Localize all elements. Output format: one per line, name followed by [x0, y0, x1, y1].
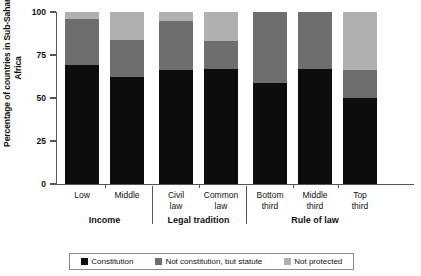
- x-axis-label-line: law: [189, 201, 253, 212]
- x-axis-label-line: Top: [328, 190, 392, 201]
- bar-middle: [110, 12, 144, 184]
- x-axis-label-line: Low: [50, 190, 114, 201]
- x-axis-label-line: third: [328, 201, 392, 212]
- x-axis-category-label: Middlethird: [283, 190, 347, 211]
- x-axis-label-line: third: [238, 201, 302, 212]
- bar-segment: [110, 40, 144, 78]
- bar-segment: [298, 12, 332, 69]
- chart-legend: ConstitutionNot constitution, but statut…: [69, 253, 354, 270]
- y-axis-title: Percentage of countries in Sub-Saharan A…: [2, 0, 24, 153]
- stacked-bar-chart: Percentage of countries in Sub-Saharan A…: [0, 0, 421, 276]
- bar-segment: [204, 12, 238, 41]
- x-axis-category-label: Topthird: [328, 190, 392, 211]
- bar-segment: [65, 12, 99, 19]
- x-axis-label-line: Middle: [95, 190, 159, 201]
- x-axis-group-label: Legal tradition: [139, 215, 259, 226]
- x-axis-group-separator: [246, 186, 247, 224]
- bar-middle-third: [298, 12, 332, 184]
- x-axis-line: [56, 184, 414, 185]
- bar-segment: [343, 98, 377, 184]
- bar-bottom-third: [253, 12, 287, 184]
- bar-common-law: [204, 12, 238, 184]
- bar-low: [65, 12, 99, 184]
- plot-area: [57, 12, 414, 184]
- bar-segment: [65, 19, 99, 65]
- legend-item: Not protected: [284, 257, 343, 266]
- bar-segment: [204, 41, 238, 69]
- light-swatch-icon: [284, 258, 291, 265]
- x-axis-group-separator: [152, 186, 153, 224]
- bar-segment: [253, 83, 287, 184]
- x-axis-group-label: Rule of law: [255, 215, 375, 226]
- dark-swatch-icon: [81, 258, 88, 265]
- bar-segment: [159, 70, 193, 184]
- legend-label: Not protected: [294, 257, 342, 266]
- legend-label: Not constitution, but statute: [165, 257, 262, 266]
- x-axis-label-line: law: [144, 201, 208, 212]
- bar-segment: [343, 12, 377, 70]
- bar-civil-law: [159, 12, 193, 184]
- x-axis-category-label: Civillaw: [144, 190, 208, 211]
- x-axis-category-label: Low: [50, 190, 114, 201]
- legend-item: Constitution: [81, 257, 134, 266]
- bar-segment: [204, 69, 238, 184]
- bar-segment: [65, 65, 99, 184]
- legend-label: Constitution: [91, 257, 133, 266]
- y-axis-tick-label: 0: [16, 180, 46, 189]
- x-axis-category-label: Middle: [95, 190, 159, 201]
- bar-segment: [110, 12, 144, 40]
- bar-segment: [343, 70, 377, 98]
- x-axis-category-label: Commonlaw: [189, 190, 253, 211]
- bar-segment: [159, 12, 193, 21]
- bar-segment: [253, 12, 287, 83]
- x-axis-group-label: Income: [45, 215, 165, 226]
- x-axis-label-line: Middle: [283, 190, 347, 201]
- x-axis-label-line: Civil: [144, 190, 208, 201]
- x-axis-category-label: Bottomthird: [238, 190, 302, 211]
- bar-segment: [110, 77, 144, 184]
- x-axis-label-line: Bottom: [238, 190, 302, 201]
- bar-top-third: [343, 12, 377, 184]
- mid-swatch-icon: [155, 258, 162, 265]
- x-axis-label-line: Common: [189, 190, 253, 201]
- x-axis-label-line: third: [283, 201, 347, 212]
- bar-segment: [298, 69, 332, 184]
- legend-item: Not constitution, but statute: [155, 257, 262, 266]
- bar-segment: [159, 21, 193, 71]
